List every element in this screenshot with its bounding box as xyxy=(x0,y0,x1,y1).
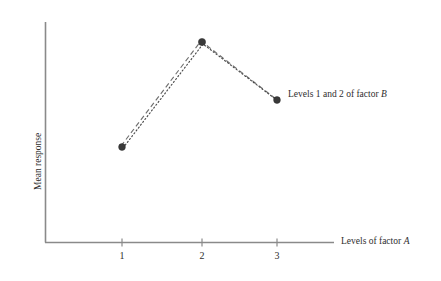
interaction-plot-figure: 1 2 3 Levels of factorA Mean response Le… xyxy=(0,0,441,281)
series-line-dotted xyxy=(123,44,278,148)
x-axis-title-text: Levels of factor xyxy=(341,236,401,246)
data-point-marker xyxy=(274,97,281,104)
data-point-marker xyxy=(198,38,205,45)
x-axis-title-factor: A xyxy=(401,236,409,246)
series-line-dashed xyxy=(121,41,276,146)
x-axis-title: Levels of factorA xyxy=(341,236,409,246)
series-annotation-factor: B xyxy=(379,89,387,99)
x-tick-label-1: 1 xyxy=(112,250,132,261)
x-tick-label-3: 3 xyxy=(267,250,287,261)
series-annotation: Levels 1and 2 of factorB xyxy=(288,89,387,99)
x-tick-label-2: 2 xyxy=(192,250,212,261)
y-axis-title: Mean response xyxy=(33,133,43,190)
series-annotation-middle: and 2 of factor xyxy=(320,89,378,99)
series-annotation-prefix: Levels 1 xyxy=(288,89,320,99)
data-point-marker xyxy=(119,144,126,151)
